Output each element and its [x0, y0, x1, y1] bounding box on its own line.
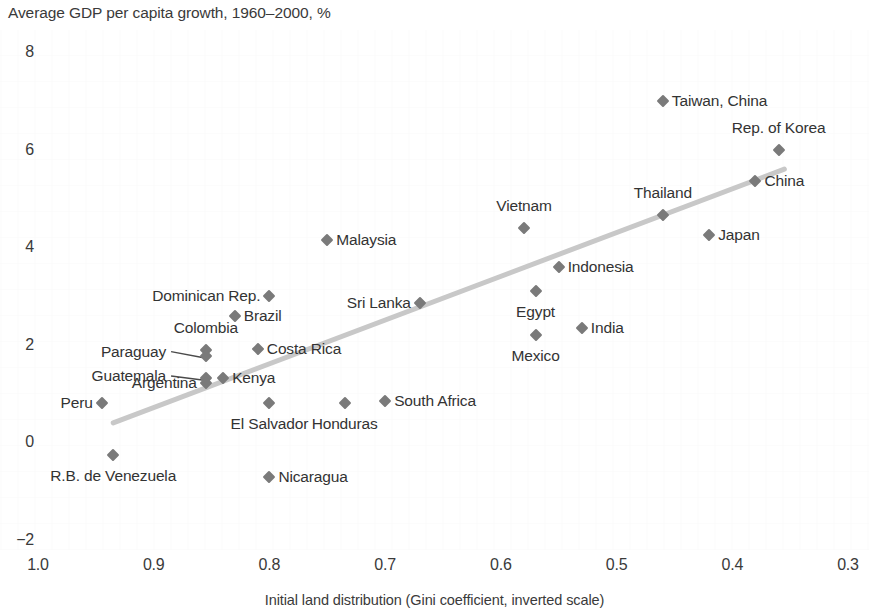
- leader-line: [171, 376, 202, 380]
- scatter-chart: Average GDP per capita growth, 1960–2000…: [0, 0, 869, 616]
- leader-line-layer: [0, 0, 869, 616]
- x-axis-label: Initial land distribution (Gini coeffici…: [0, 592, 869, 608]
- leader-line: [171, 352, 202, 358]
